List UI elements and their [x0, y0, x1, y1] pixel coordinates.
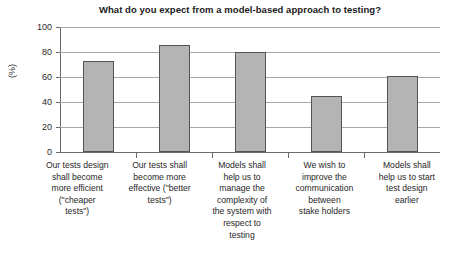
- category-label-line: respect to: [202, 218, 282, 230]
- category-label-line: testing: [202, 230, 282, 242]
- bar-chart-figure: What do you expect from a model-based ap…: [0, 0, 453, 260]
- category-label-line: tests"): [37, 206, 117, 218]
- bar: [159, 45, 190, 153]
- bar: [387, 76, 418, 152]
- x-axis-tick-mark: [364, 153, 365, 158]
- category-label-line: between: [284, 195, 364, 207]
- category-label-line: Models shall: [367, 160, 447, 172]
- x-axis-tick-mark: [288, 153, 289, 158]
- x-axis-category-label: Models shallhelp us tomanage thecomplexi…: [201, 160, 283, 258]
- y-axis-title: (%): [7, 64, 17, 78]
- gridline: [60, 152, 440, 153]
- x-axis-tick-mark: [136, 153, 137, 158]
- plot-area: [60, 27, 440, 152]
- category-label-line: improve the: [284, 172, 364, 184]
- x-axis-category-label: Models shallhelp us to starttest designe…: [366, 160, 448, 258]
- category-label-line: the system with: [202, 206, 282, 218]
- category-label-line: ("cheaper: [37, 195, 117, 207]
- category-label-line: Our tests design: [37, 160, 117, 172]
- bar: [311, 96, 342, 152]
- x-axis-category-label: Our tests designshall becomemore efficie…: [36, 160, 118, 258]
- category-label-line: help us to: [202, 172, 282, 184]
- y-axis-tick-label: 20: [20, 123, 52, 132]
- category-label-line: manage the: [202, 183, 282, 195]
- bar: [83, 61, 114, 152]
- category-label-line: tests"): [119, 195, 199, 207]
- y-axis-tick-label: 0: [20, 148, 52, 157]
- category-label-line: Our tests shall: [119, 160, 199, 172]
- category-label-line: test design: [367, 183, 447, 195]
- category-label-line: help us to start: [367, 172, 447, 184]
- category-label-line: We wish to: [284, 160, 364, 172]
- category-label-line: complexity of: [202, 195, 282, 207]
- category-label-line: shall become: [37, 172, 117, 184]
- y-axis-tick-label: 60: [20, 73, 52, 82]
- category-label-line: earlier: [367, 195, 447, 207]
- chart-title: What do you expect from a model-based ap…: [60, 4, 420, 15]
- y-axis-tick-label: 80: [20, 48, 52, 57]
- category-label-line: become more: [119, 172, 199, 184]
- gridline: [60, 27, 440, 28]
- x-axis-category-labels: Our tests designshall becomemore efficie…: [36, 160, 448, 258]
- x-axis-category-label: Our tests shallbecome moreeffective ("be…: [118, 160, 200, 258]
- category-label-line: communication: [284, 183, 364, 195]
- bar: [235, 52, 266, 152]
- x-axis-category-label: We wish toimprove thecommunicationbetwee…: [283, 160, 365, 258]
- y-axis-tick-label: 40: [20, 98, 52, 107]
- category-label-line: more efficient: [37, 183, 117, 195]
- x-axis-tick-mark: [212, 153, 213, 158]
- category-label-line: effective ("better: [119, 183, 199, 195]
- category-label-line: stake holders: [284, 206, 364, 218]
- y-axis-tick-label: 100: [20, 23, 52, 32]
- category-label-line: Models shall: [202, 160, 282, 172]
